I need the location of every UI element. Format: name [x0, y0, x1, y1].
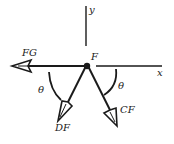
arrowhead-icon	[58, 101, 72, 121]
angle-arc-right	[104, 69, 116, 95]
force-cf-arrow	[88, 66, 117, 126]
force-fg-arrow	[12, 60, 86, 72]
arrowhead-icon	[104, 108, 117, 126]
force-fg-label: FG	[21, 47, 37, 58]
angle-label-right: θ	[118, 80, 124, 91]
force-cf-label: CF	[120, 104, 136, 115]
joint-node-f	[84, 63, 90, 69]
x-axis-label: x	[157, 67, 163, 78]
angle-label-left: θ	[38, 84, 44, 95]
joint-label-f: F	[90, 51, 99, 62]
angle-arc-left	[49, 72, 61, 100]
y-axis-label: y	[88, 4, 95, 15]
free-body-diagram: y x FG DF CF F θ θ	[0, 0, 174, 144]
force-df-arrow	[58, 66, 86, 121]
force-df-label: DF	[54, 122, 71, 133]
